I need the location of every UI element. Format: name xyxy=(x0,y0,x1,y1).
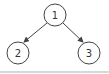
edge-1-3 xyxy=(63,23,83,42)
node-label: 2 xyxy=(15,48,21,59)
node-label: 3 xyxy=(86,48,92,59)
tree-node-1: 1 xyxy=(44,4,66,26)
tree-node-3: 3 xyxy=(78,42,100,64)
node-label: 1 xyxy=(52,10,58,21)
edge-1-2 xyxy=(24,23,47,42)
tree-diagram: 1 2 3 xyxy=(0,0,109,74)
divider xyxy=(0,71,109,73)
tree-node-2: 2 xyxy=(7,42,29,64)
